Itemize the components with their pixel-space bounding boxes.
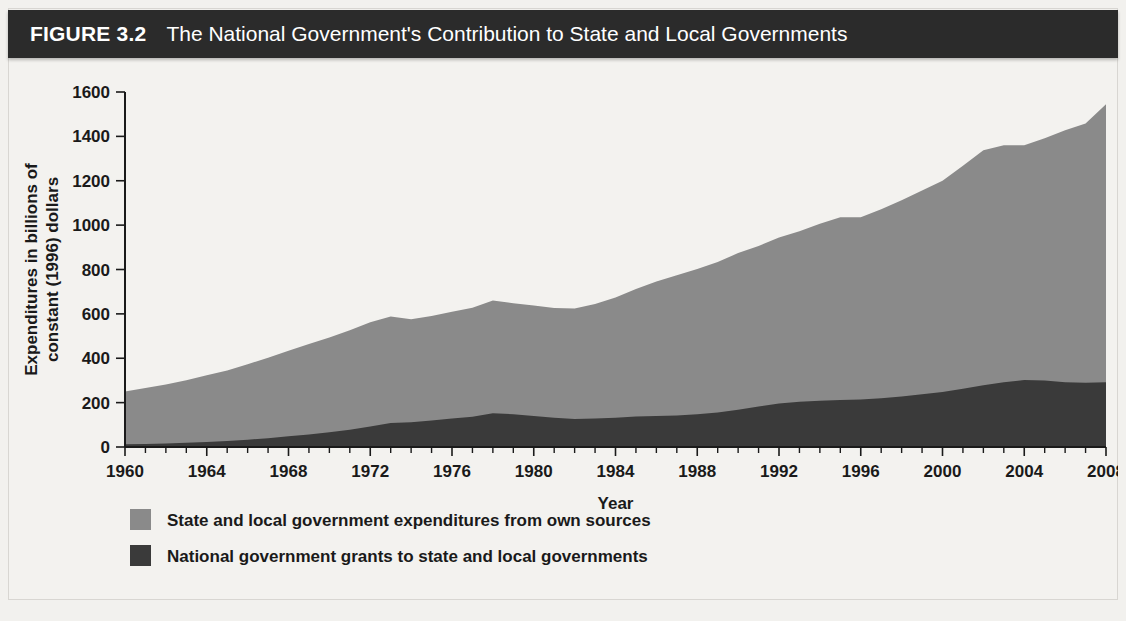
legend-swatch-state-local: [130, 509, 151, 530]
y-axis-title-line-1: Expenditures in billions of: [22, 163, 41, 376]
series-areas: [125, 104, 1106, 447]
legend-label-0: State and local government expenditures …: [167, 511, 651, 530]
x-tick-label-1972: 1972: [351, 462, 389, 481]
x-tick-label-1976: 1976: [433, 462, 471, 481]
y-tick-label-1400: 1400: [72, 127, 110, 146]
x-tick-label-1980: 1980: [515, 462, 553, 481]
y-tick-label-0: 0: [101, 438, 110, 457]
x-tick-label-2004: 2004: [1005, 462, 1043, 481]
plot-area: 02004006008001000120014001600 1960196419…: [8, 60, 1118, 600]
y-tick-label-1200: 1200: [72, 172, 110, 191]
x-axis-minor-ticks: [125, 447, 1106, 456]
figure-title-bar: FIGURE 3.2 The National Government's Con…: [8, 10, 1118, 58]
y-tick-label-1600: 1600: [72, 83, 110, 102]
x-tick-label-1996: 1996: [842, 462, 880, 481]
x-axis-tick-labels: 1960196419681972197619801984198819921996…: [106, 462, 1118, 481]
figure-container: FIGURE 3.2 The National Government's Con…: [0, 0, 1126, 621]
y-tick-label-200: 200: [82, 394, 110, 413]
x-tick-label-1984: 1984: [597, 462, 635, 481]
legend-swatch-national-grants: [130, 545, 151, 566]
y-tick-label-600: 600: [82, 305, 110, 324]
x-tick-label-2008: 2008: [1087, 462, 1118, 481]
x-tick-label-1988: 1988: [678, 462, 716, 481]
x-tick-label-2000: 2000: [924, 462, 962, 481]
y-tick-label-800: 800: [82, 261, 110, 280]
y-tick-label-400: 400: [82, 349, 110, 368]
figure-title-text: The National Government's Contribution t…: [166, 22, 847, 46]
y-tick-label-1000: 1000: [72, 216, 110, 235]
stacked-area-chart: 02004006008001000120014001600 1960196419…: [8, 60, 1118, 600]
x-tick-label-1960: 1960: [106, 462, 144, 481]
y-axis-title-line-2: constant (1996) dollars: [43, 177, 62, 362]
y-axis-ticks: [116, 92, 125, 447]
figure-number-label: FIGURE 3.2: [30, 22, 146, 46]
y-axis-tick-labels: 02004006008001000120014001600: [72, 83, 110, 457]
x-tick-label-1968: 1968: [270, 462, 308, 481]
legend-label-1: National government grants to state and …: [167, 547, 648, 566]
x-tick-label-1992: 1992: [760, 462, 798, 481]
chart-legend: State and local government expenditures …: [130, 509, 651, 566]
x-tick-label-1964: 1964: [188, 462, 226, 481]
